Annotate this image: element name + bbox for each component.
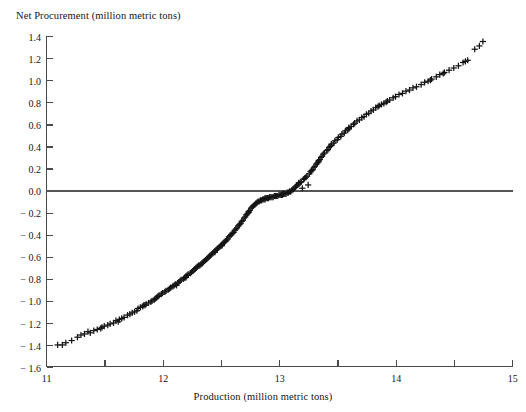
y-tick-label: − 0.8 <box>20 274 41 285</box>
scatter-point <box>476 43 482 49</box>
y-tick-label: 0.8 <box>29 97 42 108</box>
y-tick-label: 1.0 <box>29 75 42 86</box>
y-tick-label: − 0.4 <box>20 230 41 241</box>
scatter-point <box>480 38 486 44</box>
y-tick-label: 0.2 <box>29 164 42 175</box>
x-tick-label: 11 <box>42 373 52 384</box>
scatter-point <box>299 185 305 191</box>
plot-area: 1.41.21.00.80.60.40.20.0− 0.2− 0.4− 0.6−… <box>46 36 512 367</box>
y-axis-title: Net Procurement (million metric tons) <box>16 9 181 22</box>
y-tick-label: 0.0 <box>29 186 42 197</box>
y-tick-label: 0.6 <box>29 119 42 130</box>
y-tick-label: − 1.6 <box>20 362 41 373</box>
y-tick-label: 0.4 <box>29 141 42 152</box>
y-tick-label: 1.4 <box>29 31 42 42</box>
x-tick: 15 <box>512 360 513 366</box>
scatter-points <box>46 36 512 367</box>
scatter-point <box>472 46 478 52</box>
figure-container: Net Procurement (million metric tons) 1.… <box>0 0 526 412</box>
y-tick-label: − 1.2 <box>20 318 41 329</box>
x-tick-label: 14 <box>391 373 401 384</box>
y-tick-label: − 1.0 <box>20 296 41 307</box>
x-tick-label: 15 <box>508 373 518 384</box>
y-tick-label: − 1.4 <box>20 340 41 351</box>
caption-remnant <box>16 0 346 4</box>
x-axis-title: Production (million metric tons) <box>0 391 526 402</box>
x-tick-label: 13 <box>275 373 285 384</box>
x-tick-label: 12 <box>158 373 168 384</box>
y-tick: − 1.6 <box>47 367 53 368</box>
y-tick-label: − 0.6 <box>20 252 41 263</box>
scatter-point <box>69 337 75 343</box>
y-tick-label: 1.2 <box>29 53 42 64</box>
scatter-point <box>440 70 446 76</box>
scatter-point <box>305 182 311 188</box>
y-tick-label: − 0.2 <box>20 208 41 219</box>
